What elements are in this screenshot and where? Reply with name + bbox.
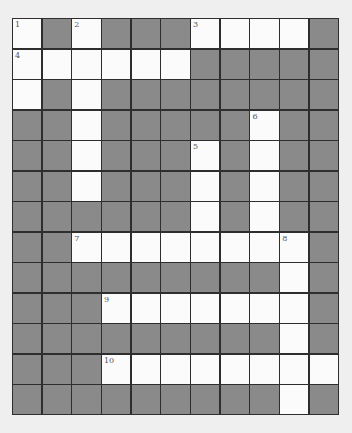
answer-cell[interactable]: [72, 80, 100, 109]
block-cell: [191, 385, 219, 414]
answer-cell[interactable]: [221, 233, 249, 262]
block-cell: [13, 294, 41, 323]
block-cell: [161, 172, 189, 201]
clue-number: 6: [252, 112, 257, 121]
block-cell: [132, 324, 160, 353]
answer-cell[interactable]: [221, 355, 249, 384]
answer-cell[interactable]: 6: [250, 111, 278, 140]
block-cell: [13, 233, 41, 262]
clue-number: 3: [193, 20, 198, 29]
answer-cell[interactable]: [280, 324, 308, 353]
block-cell: [250, 324, 278, 353]
block-cell: [280, 172, 308, 201]
block-cell: [161, 263, 189, 292]
answer-cell[interactable]: 8: [280, 233, 308, 262]
block-cell: [102, 19, 130, 48]
answer-cell[interactable]: 7: [72, 233, 100, 262]
answer-cell[interactable]: [280, 263, 308, 292]
clue-number: 7: [74, 234, 79, 243]
clue-number: 1: [15, 20, 20, 29]
answer-cell[interactable]: [132, 233, 160, 262]
answer-cell[interactable]: 5: [191, 141, 219, 170]
block-cell: [310, 80, 338, 109]
block-cell: [132, 141, 160, 170]
answer-cell[interactable]: [72, 141, 100, 170]
block-cell: [310, 172, 338, 201]
block-cell: [102, 172, 130, 201]
answer-cell[interactable]: [280, 294, 308, 323]
block-cell: [132, 202, 160, 231]
block-cell: [250, 263, 278, 292]
answer-cell[interactable]: [191, 172, 219, 201]
block-cell: [102, 111, 130, 140]
answer-cell[interactable]: [280, 355, 308, 384]
crossword-page: 12346578910: [0, 0, 352, 433]
block-cell: [221, 324, 249, 353]
answer-cell[interactable]: [132, 355, 160, 384]
answer-cell[interactable]: [132, 50, 160, 79]
answer-cell[interactable]: 9: [102, 294, 130, 323]
answer-cell[interactable]: [221, 294, 249, 323]
block-cell: [310, 294, 338, 323]
block-cell: [13, 355, 41, 384]
answer-cell[interactable]: [191, 355, 219, 384]
block-cell: [13, 385, 41, 414]
answer-cell[interactable]: [13, 80, 41, 109]
block-cell: [161, 80, 189, 109]
block-cell: [221, 111, 249, 140]
block-cell: [43, 19, 71, 48]
block-cell: [280, 111, 308, 140]
answer-cell[interactable]: [250, 141, 278, 170]
answer-cell[interactable]: [250, 355, 278, 384]
block-cell: [43, 141, 71, 170]
answer-cell[interactable]: [191, 233, 219, 262]
block-cell: [280, 50, 308, 79]
answer-cell[interactable]: [250, 294, 278, 323]
answer-cell[interactable]: 4: [13, 50, 41, 79]
block-cell: [221, 172, 249, 201]
answer-cell[interactable]: [72, 172, 100, 201]
answer-cell[interactable]: [250, 172, 278, 201]
answer-cell[interactable]: [221, 19, 249, 48]
clue-number: 10: [104, 356, 114, 365]
answer-cell[interactable]: 1: [13, 19, 41, 48]
answer-cell[interactable]: [72, 111, 100, 140]
block-cell: [161, 324, 189, 353]
answer-cell[interactable]: [250, 233, 278, 262]
answer-cell[interactable]: [191, 294, 219, 323]
clue-number: 2: [74, 20, 79, 29]
answer-cell[interactable]: [102, 50, 130, 79]
block-cell: [161, 111, 189, 140]
clue-number: 9: [104, 295, 109, 304]
block-cell: [221, 385, 249, 414]
crossword-grid: 12346578910: [12, 18, 339, 415]
block-cell: [132, 19, 160, 48]
block-cell: [13, 263, 41, 292]
answer-cell[interactable]: 10: [102, 355, 130, 384]
answer-cell[interactable]: [280, 19, 308, 48]
answer-cell[interactable]: [310, 355, 338, 384]
block-cell: [13, 324, 41, 353]
answer-cell[interactable]: [161, 233, 189, 262]
answer-cell[interactable]: [72, 50, 100, 79]
block-cell: [43, 80, 71, 109]
answer-cell[interactable]: [250, 202, 278, 231]
answer-cell[interactable]: [132, 294, 160, 323]
block-cell: [310, 19, 338, 48]
block-cell: [161, 385, 189, 414]
answer-cell[interactable]: [43, 50, 71, 79]
answer-cell[interactable]: [102, 233, 130, 262]
answer-cell[interactable]: 2: [72, 19, 100, 48]
block-cell: [72, 294, 100, 323]
block-cell: [250, 50, 278, 79]
block-cell: [13, 111, 41, 140]
answer-cell[interactable]: [161, 294, 189, 323]
answer-cell[interactable]: 3: [191, 19, 219, 48]
answer-cell[interactable]: [250, 19, 278, 48]
answer-cell[interactable]: [280, 385, 308, 414]
block-cell: [43, 233, 71, 262]
answer-cell[interactable]: [191, 202, 219, 231]
answer-cell[interactable]: [161, 355, 189, 384]
answer-cell[interactable]: [161, 50, 189, 79]
block-cell: [43, 263, 71, 292]
